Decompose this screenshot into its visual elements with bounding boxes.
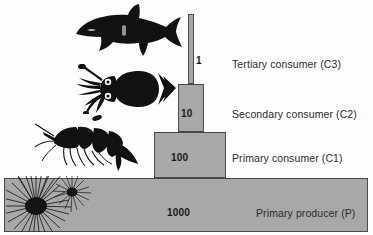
squid-silhouette-icon	[60, 64, 178, 114]
sea-urchin-silhouette-icon	[6, 176, 98, 232]
tier-label-primary-producer: Primary producer (P)	[256, 207, 355, 219]
tier-label-tertiary-consumer: Tertiary consumer (C3)	[232, 58, 341, 70]
pyramid-bar-primary-consumer	[154, 132, 226, 178]
value-label-secondary-consumer: 10	[181, 108, 193, 119]
value-label-primary-consumer: 100	[171, 152, 188, 163]
tier-label-primary-consumer: Primary consumer (C1)	[232, 152, 343, 164]
tier-label-secondary-consumer: Secondary consumer (C2)	[232, 108, 357, 120]
value-label-primary-producer: 1000	[167, 207, 190, 218]
pyramid-bar-tertiary-consumer	[188, 14, 194, 84]
shrimp-silhouette-icon	[34, 114, 144, 176]
energy-pyramid-figure: 1 10 100 1000 Tertiary consumer (C3) Sec…	[0, 0, 373, 235]
shark-silhouette-icon	[74, 4, 186, 60]
value-label-tertiary-consumer: 1	[196, 55, 202, 66]
